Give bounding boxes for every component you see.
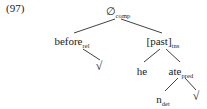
radical-symbol-before: √	[96, 60, 103, 72]
tree-node-ndet-subscript: det	[162, 100, 170, 107]
tree-node-before: beforerel	[54, 36, 89, 50]
tree-node-ate-subscript: pred	[181, 72, 193, 79]
tree-node-past-label: [past]	[147, 35, 172, 47]
tree-node-ate: atepred	[169, 66, 194, 80]
branch-root-to-before	[74, 19, 115, 33]
branch-past-to-ate	[166, 49, 180, 62]
tree-node-ate-label: ate	[169, 65, 182, 77]
tree-node-past-subscript: tns	[172, 42, 180, 49]
tree-node-he: he	[137, 66, 147, 80]
tree-node-before-subscript: rel	[82, 42, 89, 49]
example-number: (97)	[6, 3, 24, 14]
syntax-tree-figure: (97) ∅comp beforerel [past]tns he atepre…	[0, 0, 207, 109]
tree-node-past: [past]tns	[147, 36, 180, 50]
branch-root-to-past	[121, 19, 162, 33]
tree-node-before-label: before	[54, 35, 82, 47]
tree-node-ndet: ndet	[156, 94, 170, 108]
tree-node-he-label: he	[137, 65, 147, 77]
tree-node-comp-label: ∅	[106, 5, 116, 17]
radical-symbol-ate: √	[193, 90, 200, 102]
tree-node-comp-subscript: comp	[116, 12, 131, 19]
tree-branch-layer	[0, 0, 207, 109]
branch-ate-to-ndet	[165, 78, 178, 91]
tree-node-comp: ∅comp	[106, 6, 131, 20]
branch-past-to-he	[144, 49, 160, 62]
